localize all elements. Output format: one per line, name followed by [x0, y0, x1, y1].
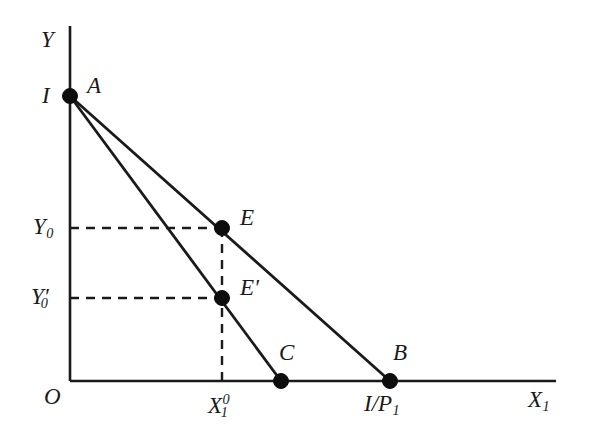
x-axis-label-sub: 1 [543, 398, 550, 414]
y-axis-label: Y [41, 28, 54, 51]
x-tick-label-i-p1: I/P1 [364, 392, 400, 417]
x-axis-label: X1 [528, 388, 550, 413]
y-intercept-label: I [42, 84, 50, 107]
point-a [63, 89, 78, 104]
x-tick-ip1-text: I/P [364, 391, 392, 416]
budget-line-ac [70, 96, 281, 381]
diagram-canvas [0, 0, 595, 447]
origin-label: O [44, 385, 61, 408]
budget-constraint-figure: Y X1 O I Y0 Y′0 X01 I/P1 A E E′ C B [0, 0, 595, 447]
y-tick-label-y0-prime: Y′0 [31, 285, 48, 310]
x-tick-x10-sub: 1 [221, 404, 228, 420]
point-label-a: A [87, 74, 101, 97]
point-label-e: E [240, 206, 254, 229]
point-e-prime [215, 291, 230, 306]
point-label-b: B [393, 341, 407, 364]
y-tick-y0-sub: 0 [46, 225, 53, 241]
x-tick-label-x1-0: X01 [208, 392, 228, 419]
point-label-c: C [279, 341, 294, 364]
budget-line-ab [70, 96, 390, 381]
y-tick-y0-text: Y [33, 214, 46, 239]
y-tick-label-y0: Y0 [33, 215, 53, 240]
point-b [383, 374, 398, 389]
x-tick-ip1-sub: 1 [393, 402, 400, 418]
point-e [215, 221, 230, 236]
point-label-e-prime: E′ [240, 276, 259, 299]
point-c [274, 374, 289, 389]
y-tick-y0prime-sub: 0 [41, 295, 48, 311]
x-axis-label-text: X [528, 387, 542, 412]
x-tick-x10-text: X [208, 393, 222, 418]
